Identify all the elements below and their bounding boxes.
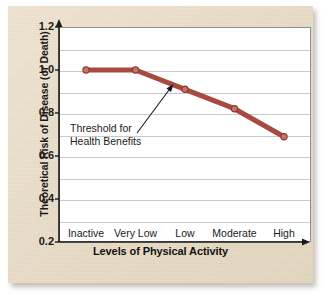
annotation-arrow-line bbox=[137, 88, 171, 133]
data-point-marker bbox=[281, 134, 287, 140]
data-series-line bbox=[86, 70, 284, 137]
data-point-markers bbox=[83, 67, 287, 140]
data-point-marker bbox=[83, 67, 89, 73]
y-axis-arrowhead bbox=[56, 19, 63, 27]
x-axis-arrowhead bbox=[302, 239, 310, 246]
data-point-marker bbox=[182, 86, 188, 92]
annotation-arrow bbox=[137, 84, 174, 133]
data-point-marker bbox=[132, 67, 138, 73]
chart-vector-layer bbox=[8, 6, 313, 283]
chart-card: 1.21.00.80.60.40.2 InactiveVery LowLowMo… bbox=[8, 6, 313, 283]
data-point-marker bbox=[231, 106, 237, 112]
figure-container: 1.21.00.80.60.40.2 InactiveVery LowLowMo… bbox=[0, 0, 331, 299]
